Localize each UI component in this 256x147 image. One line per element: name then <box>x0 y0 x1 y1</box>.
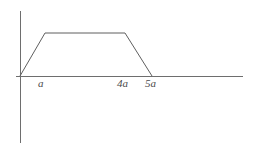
x-tick-label-4a: 4a <box>117 78 128 89</box>
x-tick-label-5a: 5a <box>145 78 156 89</box>
x-tick-label-a: a <box>38 78 44 89</box>
trapezoid-graph-figure: a 4a 5a <box>0 0 256 147</box>
trapezoid-profile-line <box>20 33 152 76</box>
graph-canvas <box>0 0 256 147</box>
